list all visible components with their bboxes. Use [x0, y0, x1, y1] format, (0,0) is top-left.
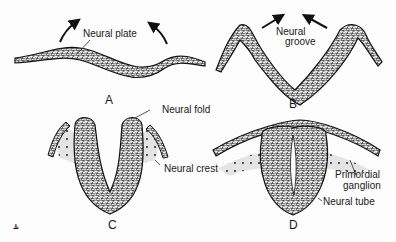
label-neural-crest: Neural crest	[164, 163, 218, 174]
panel-label-c: C	[108, 218, 117, 232]
label-primordial-line2: ganglion	[343, 180, 381, 191]
label-neural-fold: Neural fold	[162, 104, 210, 115]
neural-tube-development-diagram: Neural plate Neural groove Neural fold N…	[0, 0, 396, 242]
label-neural-groove-line2: groove	[285, 36, 316, 47]
label-primordial-line1: Primordial	[335, 169, 380, 180]
label-neural-plate: Neural plate	[83, 28, 137, 39]
panel-label-b: B	[289, 97, 297, 111]
label-neural-tube: Neural tube	[323, 196, 375, 207]
panel-label-d: D	[289, 218, 298, 232]
panel-c-neural-fold	[48, 110, 168, 214]
corner-mark: ⫨	[13, 220, 19, 231]
panel-label-a: A	[105, 93, 113, 107]
